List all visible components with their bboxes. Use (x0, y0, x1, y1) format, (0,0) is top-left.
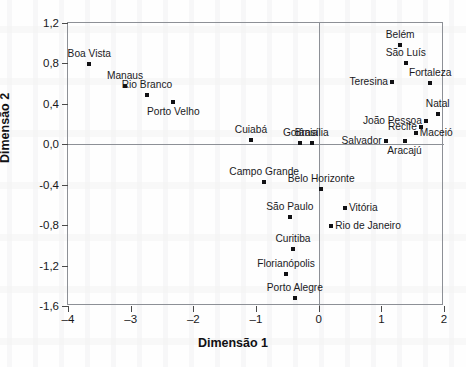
data-point-label: Recife (388, 122, 417, 132)
data-point-label: Porto Velho (147, 107, 200, 117)
data-point-label: São Paulo (266, 202, 313, 212)
data-point-label: Rio Branco (122, 80, 172, 90)
data-point-label: Natal (426, 99, 450, 109)
data-point-marker (87, 62, 91, 66)
y-axis-title: Dimensão 2 (0, 93, 12, 163)
data-point-label: Rio de Janeiro (335, 221, 401, 231)
x-tick (444, 306, 445, 312)
y-tick (62, 144, 68, 145)
data-point-label: Teresina (349, 77, 388, 87)
y-tick (62, 266, 68, 267)
y-tick-label: 0,8 (43, 57, 59, 69)
data-point-marker (291, 247, 295, 251)
x-tick-label: –2 (187, 313, 200, 325)
data-point-label: São Luís (386, 48, 426, 58)
data-point-label: Fortaleza (409, 67, 451, 77)
y-tick-label: -0,4 (39, 179, 59, 191)
plot-area: 1,20,80,40,0-0,4-0,8-1,2-1,6 –4–3–2–1012… (67, 22, 443, 305)
x-tick-label: –3 (124, 313, 137, 325)
data-point-marker (403, 139, 407, 143)
data-point-marker (145, 93, 149, 97)
data-point-label: Boa Vista (68, 49, 111, 59)
y-tick (62, 185, 68, 186)
data-point-label: Brasília (295, 128, 329, 138)
y-tick-label: -0,8 (39, 219, 59, 231)
y-tick (62, 63, 68, 64)
y-tick-label: 0,4 (43, 98, 59, 110)
data-point-label: Salvador (342, 136, 382, 146)
data-point-label: Cuiabá (235, 125, 267, 135)
x-tick-label: –4 (62, 313, 75, 325)
data-point-label: Aracajú (387, 146, 422, 156)
y-tick-label: 1,2 (43, 17, 59, 29)
data-point-label: Belém (386, 30, 415, 40)
data-point-label: Belo Horizonte (288, 174, 355, 184)
x-tick (131, 306, 132, 312)
x-axis-title: Dimensão 1 (0, 336, 466, 350)
data-point-marker (310, 141, 314, 145)
y-tick-label: -1,2 (39, 260, 59, 272)
data-point-marker (262, 180, 266, 184)
chart-page: 1,20,80,40,0-0,4-0,8-1,2-1,6 –4–3–2–1012… (0, 0, 466, 367)
data-point-marker (414, 131, 418, 135)
data-point-label: Florianópolis (257, 258, 315, 268)
x-tick-label: –1 (250, 313, 263, 325)
y-tick-label: 0,0 (43, 138, 59, 150)
data-point-marker (343, 206, 347, 210)
data-point-marker (329, 224, 333, 228)
x-tick-label: 1 (378, 313, 384, 325)
data-point-label: Porto Alegre (267, 283, 323, 293)
data-point-label: Vitória (349, 203, 378, 213)
y-tick (62, 104, 68, 105)
x-tick-label: 2 (441, 313, 447, 325)
data-point-marker (424, 119, 428, 123)
x-tick (68, 306, 69, 312)
x-tick (193, 306, 194, 312)
data-point-marker (384, 139, 388, 143)
data-point-marker (171, 100, 175, 104)
data-point-marker (293, 296, 297, 300)
data-point-marker (404, 61, 408, 65)
data-point-label: Maceió (420, 128, 453, 138)
data-point-label: Curitiba (275, 234, 310, 244)
data-point-marker (319, 187, 323, 191)
data-point-marker (284, 272, 288, 276)
data-point-marker (436, 112, 440, 116)
data-point-marker (428, 81, 432, 85)
x-tick (319, 306, 320, 312)
data-point-marker (390, 80, 394, 84)
x-tick (381, 306, 382, 312)
data-point-marker (298, 141, 302, 145)
data-point-marker (249, 138, 253, 142)
x-tick-label: 0 (315, 313, 321, 325)
y-tick-label: -1,6 (39, 300, 59, 312)
y-tick (62, 225, 68, 226)
y-tick (62, 23, 68, 24)
vertical-zero-line (319, 23, 320, 306)
data-point-marker (288, 215, 292, 219)
x-tick (256, 306, 257, 312)
